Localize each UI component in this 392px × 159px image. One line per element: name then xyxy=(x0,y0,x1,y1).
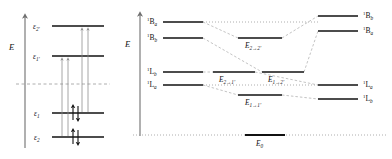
svg-text:ε1': ε1' xyxy=(33,52,41,62)
label-E0: E0 xyxy=(255,139,264,149)
connector-E21p-1La xyxy=(255,72,318,85)
label-1La-right: 1La xyxy=(363,80,373,90)
label-1La-left: 1La xyxy=(147,80,157,90)
right-panel: E 1Ba 1Bb 1Lb 1La xyxy=(124,11,388,149)
connector-E22p-1Bb xyxy=(282,16,318,38)
label-1Bb-left: 1Bb xyxy=(147,33,157,43)
label-1Lb-right: 1Lb xyxy=(363,94,373,104)
svg-text:ε2': ε2' xyxy=(33,22,41,32)
right-axis-label: E xyxy=(124,39,131,49)
label-1Ba-right: 1Ba xyxy=(363,26,373,36)
label-E12p: E1→2' xyxy=(267,75,285,85)
label-1Ba-left: 1Ba xyxy=(147,17,157,27)
connector-E11p-1Lb xyxy=(282,95,318,99)
label-1Bb-right: 1Bb xyxy=(363,11,373,21)
connector-E12p-1Ba xyxy=(304,31,318,72)
svg-text:ε2: ε2 xyxy=(34,133,40,143)
connector-1Ba-E22p xyxy=(203,22,238,38)
label-E21p: E2→1' xyxy=(218,75,236,85)
label-eps1p: ε1' xyxy=(33,52,41,62)
energy-level-diagram: E ε2' ε1' ε1 ε2 xyxy=(0,0,392,159)
left-panel: E ε2' ε1' ε1 ε2 xyxy=(8,16,110,148)
left-axis-label: E xyxy=(8,42,15,52)
label-E22p: E2→2' xyxy=(244,41,262,51)
label-eps2p: ε2' xyxy=(33,22,41,32)
svg-text:ε1: ε1 xyxy=(34,109,40,119)
label-1Lb-left: 1Lb xyxy=(147,67,157,77)
connector-1Bb-E12p xyxy=(203,38,262,72)
label-eps2: ε2 xyxy=(34,133,40,143)
connector-1La-E11p xyxy=(203,85,238,95)
label-eps1: ε1 xyxy=(34,109,40,119)
label-E11p: E1→1' xyxy=(244,98,262,108)
